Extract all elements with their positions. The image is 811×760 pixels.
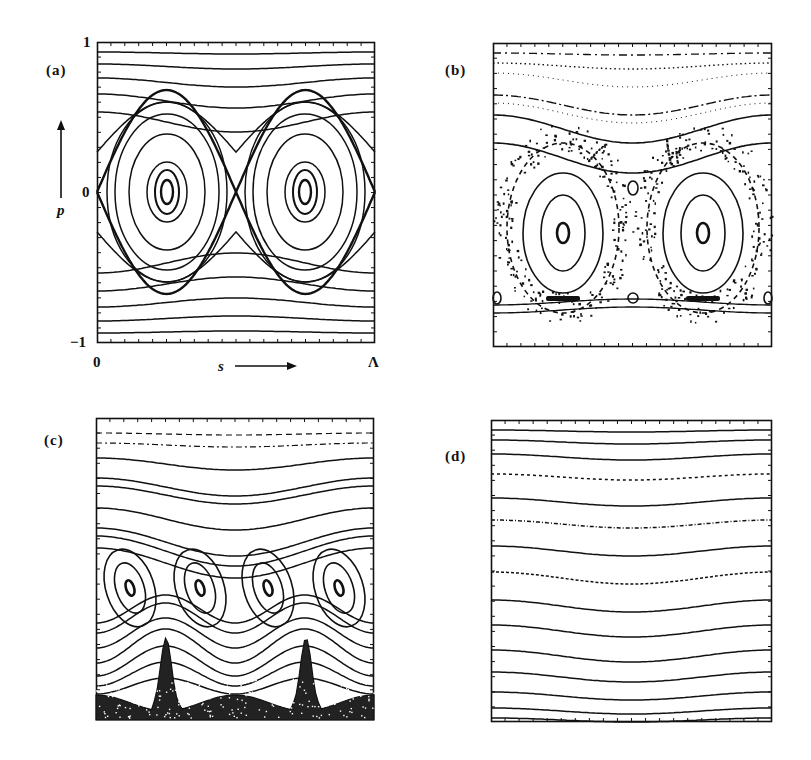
x-tick-left: 0 [93, 354, 101, 371]
phase-portrait-b [493, 43, 772, 347]
panel-label-d: (d) [445, 448, 466, 465]
phase-portrait-c [96, 418, 374, 720]
x-axis-arrow-icon [235, 360, 297, 372]
y-axis-arrow-icon [55, 120, 67, 200]
phase-portrait-a [97, 42, 375, 343]
y-tick-zero: 0 [82, 184, 90, 201]
x-tick-right: Λ [368, 354, 379, 371]
panel-label-b: (b) [445, 62, 466, 79]
y-axis-label: p [57, 202, 65, 219]
panel-label-a: (a) [46, 62, 67, 79]
panel-label-c: (c) [44, 432, 64, 449]
x-axis-label: s [218, 358, 224, 375]
y-tick-top: 1 [83, 34, 91, 51]
y-tick-bottom: −1 [70, 334, 86, 351]
phase-portrait-d [491, 420, 772, 722]
